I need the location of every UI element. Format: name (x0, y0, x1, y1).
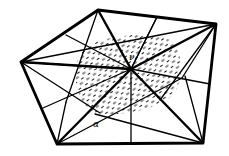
shaded-region (76, 35, 182, 114)
diagram-canvas: ν α (0, 0, 229, 156)
angle-label: α (93, 119, 99, 129)
triangulation-figure: ν α (0, 0, 229, 156)
center-label: ν (129, 52, 135, 62)
